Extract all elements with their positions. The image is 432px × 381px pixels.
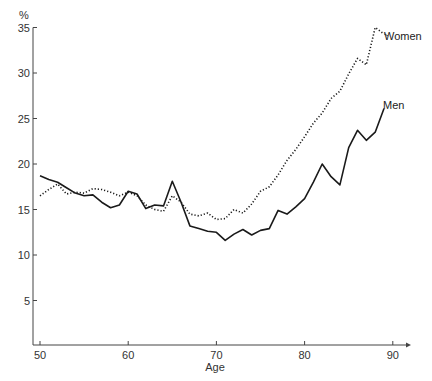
y-tick-label: 30 bbox=[18, 67, 30, 79]
women-label: Women bbox=[384, 30, 422, 42]
labels-group: WomenMen bbox=[383, 30, 422, 111]
y-tick-label: 25 bbox=[18, 113, 30, 125]
series-group bbox=[40, 28, 384, 241]
y-tick-label: 35 bbox=[18, 22, 30, 34]
women-line bbox=[40, 28, 384, 220]
x-axis-title: Age bbox=[205, 361, 225, 373]
y-tick-label: 15 bbox=[18, 204, 30, 216]
men-label: Men bbox=[383, 99, 404, 111]
x-tick-label: 50 bbox=[34, 349, 46, 361]
x-axis-arrow-icon bbox=[406, 343, 411, 348]
axes: 5101520253035%5060708090Age bbox=[18, 9, 411, 373]
x-tick-label: 90 bbox=[387, 349, 399, 361]
x-tick-label: 80 bbox=[298, 349, 310, 361]
men-line bbox=[40, 109, 384, 241]
line-chart: 5101520253035%5060708090Age WomenMen bbox=[0, 0, 432, 381]
y-tick-label: 20 bbox=[18, 158, 30, 170]
x-tick-label: 60 bbox=[122, 349, 134, 361]
y-tick-label: 5 bbox=[24, 295, 30, 307]
x-tick-label: 70 bbox=[210, 349, 222, 361]
y-tick-label: 10 bbox=[18, 249, 30, 261]
y-unit-label: % bbox=[19, 9, 29, 21]
